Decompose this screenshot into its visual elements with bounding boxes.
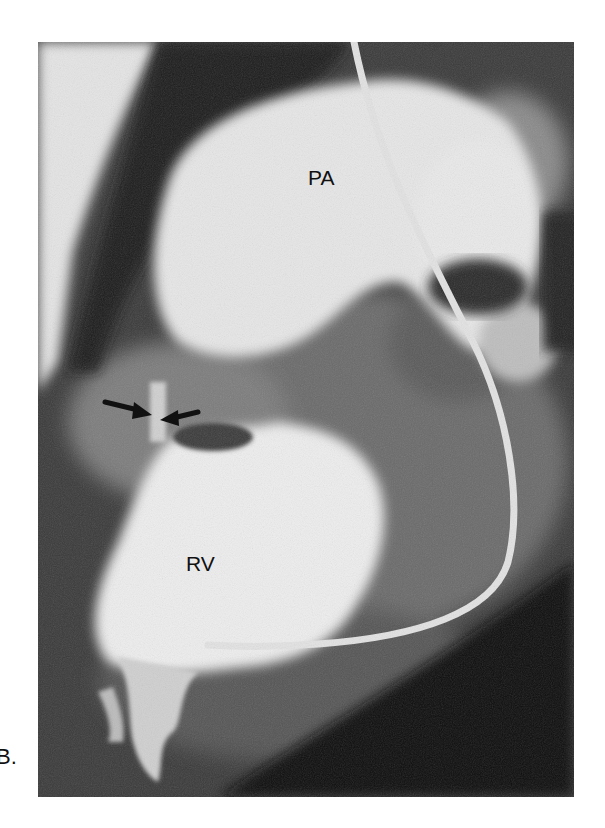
pa-label: PA [308,166,334,190]
panel-label: B. [0,744,17,770]
rv-label: RV [186,552,215,576]
angiogram-image: PA RV [38,42,574,797]
